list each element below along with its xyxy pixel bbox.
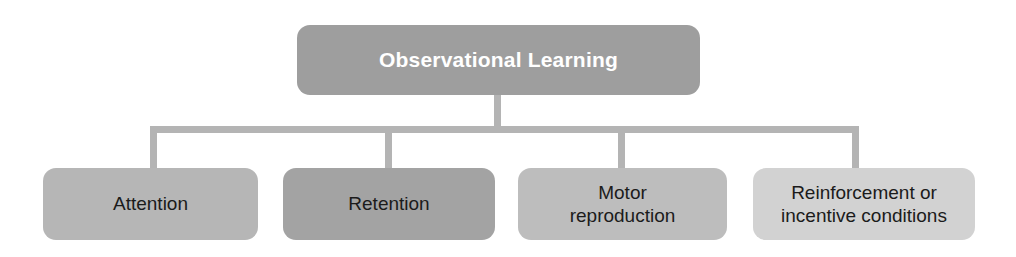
node-reinforcement-incentive-conditions: Reinforcement or incentive conditions [753, 168, 975, 240]
node-attention: Attention [43, 168, 258, 240]
connector-horizontal-bus [150, 126, 859, 133]
node-retention: Retention [283, 168, 495, 240]
node-observational-learning: Observational Learning [297, 25, 700, 95]
connector-root-stem [494, 93, 501, 128]
node-label-motor-reproduction: Motor reproduction [570, 181, 676, 227]
connector-drop-reinforcement [852, 131, 859, 171]
node-motor-reproduction: Motor reproduction [518, 168, 727, 240]
node-label-reinforcement-incentive-conditions: Reinforcement or incentive conditions [781, 181, 947, 227]
node-label-attention: Attention [113, 192, 188, 215]
connector-drop-attention [150, 131, 157, 171]
connector-drop-retention [385, 131, 392, 171]
node-label-observational-learning: Observational Learning [379, 47, 618, 73]
node-label-retention: Retention [348, 192, 429, 215]
observational-learning-diagram: Observational Learning Attention Retenti… [0, 0, 1016, 257]
connector-drop-motor-reproduction [618, 131, 625, 171]
